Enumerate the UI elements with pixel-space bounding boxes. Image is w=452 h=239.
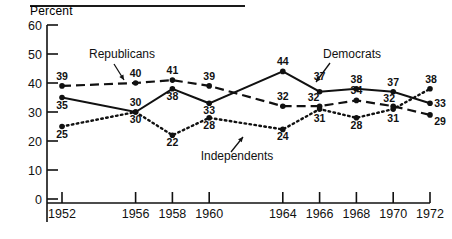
point-label-democrats-1958: 38	[167, 90, 179, 102]
x-axis-tick-label: 1970	[379, 207, 407, 221]
x-axis-tick-label: 1972	[416, 207, 444, 221]
point-label-democrats-1956: 30	[130, 96, 142, 108]
data-point-republicans-1968	[354, 98, 360, 104]
point-label-independents-1952: 25	[56, 128, 68, 140]
annotation-label-republicans: Republicans	[89, 47, 155, 61]
y-axis-tick-label: 20	[28, 135, 42, 149]
point-label-democrats-1970: 37	[387, 76, 399, 88]
annotation-label-democrats: Democrats	[323, 47, 381, 61]
y-axis-tick-label: 50	[28, 48, 42, 62]
point-label-republicans-1956: 40	[130, 67, 142, 79]
x-axis-tick-label: 1956	[122, 207, 150, 221]
x-axis-tick-label: 1968	[342, 207, 370, 221]
data-point-democrats-1970	[390, 89, 396, 95]
point-label-independents-1968: 28	[351, 119, 363, 131]
x-axis-tick-label: 1952	[48, 207, 76, 221]
point-label-republicans-1952: 39	[56, 70, 68, 82]
x-axis-tick-label: 1960	[195, 207, 223, 221]
y-axis-tick-label: 0	[35, 193, 42, 207]
point-label-republicans-1960: 39	[203, 70, 215, 82]
point-label-democrats-1972: 33	[434, 97, 446, 109]
x-axis-tick-label: 1966	[306, 207, 334, 221]
data-point-republicans-1964	[280, 103, 286, 109]
data-point-independents-1966	[317, 106, 323, 112]
y-axis-tick-label: 40	[28, 77, 42, 91]
point-label-democrats-1952: 35	[56, 99, 68, 111]
data-point-democrats-1968	[354, 86, 360, 92]
point-label-independents-1964: 24	[277, 130, 289, 142]
point-label-independents-1958: 22	[167, 136, 179, 148]
y-axis-tick-label: 10	[28, 164, 42, 178]
data-point-democrats-1966	[317, 89, 323, 95]
data-point-republicans-1958	[170, 77, 176, 83]
data-point-republicans-1972	[427, 112, 433, 118]
point-label-independents-1972: 38	[425, 73, 437, 85]
point-label-republicans-1972: 29	[434, 115, 446, 127]
data-point-republicans-1956	[133, 80, 139, 86]
point-label-independents-1960: 28	[203, 119, 215, 131]
y-axis-tick-label: 30	[28, 106, 42, 120]
x-axis-tick-label: 1964	[269, 207, 297, 221]
y-axis-tick-label: 60	[28, 19, 42, 33]
data-point-republicans-1952	[59, 83, 65, 89]
data-point-democrats-1972	[427, 101, 433, 107]
data-point-democrats-1964	[280, 69, 286, 75]
point-label-independents-1956: 30	[130, 113, 142, 125]
point-label-democrats-1968: 38	[351, 73, 363, 85]
point-label-independents-1970: 31	[387, 112, 399, 124]
point-label-republicans-1964: 32	[277, 90, 289, 102]
point-label-democrats-1960: 33	[203, 104, 215, 116]
point-label-independents-1966: 31	[314, 112, 326, 124]
series-line-democrats	[62, 71, 430, 112]
point-label-democrats-1964: 44	[277, 55, 289, 67]
series-line-republicans	[62, 80, 430, 115]
data-point-independents-1972	[427, 86, 433, 92]
chart-figure: Percent 01020304050601952195619581960196…	[0, 0, 452, 239]
point-label-republicans-1958: 41	[167, 64, 179, 76]
chart-canvas: 0102030405060195219561958196019641966196…	[0, 0, 452, 239]
x-axis-tick-label: 1958	[158, 207, 186, 221]
data-point-republicans-1960	[206, 83, 212, 89]
data-point-independents-1970	[390, 106, 396, 112]
annotation-label-independents: Independents	[201, 149, 274, 163]
